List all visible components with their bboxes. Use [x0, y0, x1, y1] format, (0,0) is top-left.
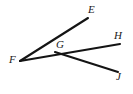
point-label-e: E [88, 4, 95, 15]
point-label-g: G [56, 39, 64, 50]
ray-g-to-j [55, 52, 118, 72]
point-label-j: J [116, 71, 121, 82]
geometry-canvas [0, 0, 133, 94]
point-label-f: F [9, 54, 16, 65]
point-label-h: H [114, 30, 122, 41]
geometry-figure: E H G F J [0, 0, 133, 94]
